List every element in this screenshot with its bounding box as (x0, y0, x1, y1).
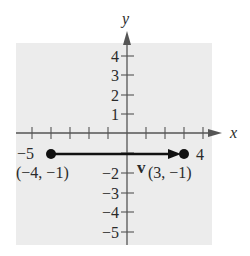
x-tick-label-max: 4 (196, 146, 204, 163)
y-tick-label: 4 (111, 48, 119, 65)
vector-name-label: v (137, 158, 146, 177)
y-tick-label: 2 (111, 87, 119, 104)
x-axis-label: x (229, 124, 237, 141)
coordinate-plane-figure: x −5 4 y 4 3 2 1 −2 −3 −4 −5 (0, 0, 250, 256)
y-tick-label: 1 (111, 106, 119, 123)
y-tick-label: −2 (102, 165, 119, 182)
vector-start-point (46, 149, 56, 159)
vector-end-point (179, 149, 189, 159)
x-tick-label-min: −5 (17, 145, 34, 162)
y-tick-label: −4 (102, 204, 119, 221)
start-point-label: (−4, −1) (16, 164, 69, 182)
y-tick-label: −3 (102, 185, 119, 202)
y-axis-label: y (120, 10, 130, 28)
end-point-label: (3, −1) (148, 164, 192, 182)
x-axis-arrow-icon (208, 129, 222, 137)
y-tick-label: −5 (102, 224, 119, 241)
y-tick-label: 3 (111, 67, 119, 84)
y-axis-arrow-icon (123, 31, 131, 45)
